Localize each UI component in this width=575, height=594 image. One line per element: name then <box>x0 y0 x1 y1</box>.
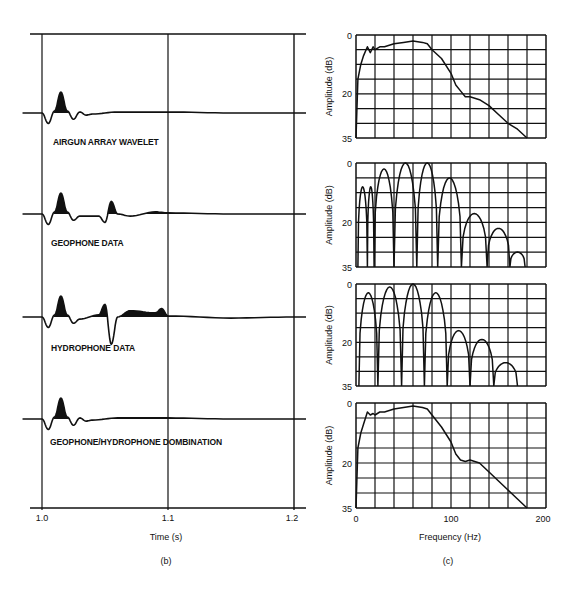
x-tick-1-1: 1.1 <box>162 513 175 523</box>
y-tick-0: 0 <box>347 399 352 409</box>
trace-1 <box>23 193 306 225</box>
y-tick-35: 35 <box>342 134 352 144</box>
y-tick-20: 20 <box>342 338 352 348</box>
y-tick-0: 0 <box>347 280 352 290</box>
y-axis-title-amplitude: Amplitude (dB) <box>324 305 334 365</box>
spectrum-curve <box>358 163 525 267</box>
y-tick-20: 20 <box>342 89 352 99</box>
trace-3 <box>23 398 306 430</box>
trace-label-hydrophone: HYDROPHONE DATA <box>51 343 135 353</box>
trace-line <box>23 398 306 430</box>
trace-label-combination: GEOPHONE/HYDROPHONE DOMBINATION <box>50 437 222 447</box>
y-axis-title-amplitude: Amplitude (dB) <box>324 426 334 486</box>
x-axis-title-time: Time (s) <box>150 532 183 542</box>
trace-fill <box>54 193 208 214</box>
figure: AIRGUN ARRAY WAVELET GEOPHONE DATA HYDRO… <box>0 0 575 594</box>
trace-0 <box>23 92 306 124</box>
spectrum-chart-3: 02035Amplitude (dB) <box>324 280 546 392</box>
y-axis-title-amplitude: Amplitude (dB) <box>324 57 334 117</box>
trace-line <box>23 296 306 344</box>
spectrum-chart-2: 02035Amplitude (dB) <box>324 159 546 273</box>
trace-label-airgun: AIRGUN ARRAY WAVELET <box>53 137 160 147</box>
spectrum-curve <box>359 284 518 386</box>
y-tick-35: 35 <box>342 504 352 514</box>
x-tick-1-0: 1.0 <box>36 513 49 523</box>
trace-line <box>23 92 306 124</box>
spectrum-chart-1: 02035Amplitude (dB) <box>324 31 546 144</box>
caption-b: (b) <box>161 556 172 566</box>
x-axis-title-frequency: Frequency (Hz) <box>419 532 481 542</box>
trace-fill <box>54 398 208 419</box>
x-tick-1-2: 1.2 <box>286 513 299 523</box>
trace-fill <box>54 92 208 113</box>
caption-c: (c) <box>443 556 454 566</box>
x-tick-freq-200: 200 <box>535 514 550 524</box>
y-tick-20: 20 <box>342 218 352 228</box>
y-tick-0: 0 <box>347 159 352 169</box>
y-axis-title-amplitude: Amplitude (dB) <box>324 185 334 245</box>
trace-line <box>23 193 306 225</box>
x-tick-freq-0: 0 <box>353 514 358 524</box>
y-tick-35: 35 <box>342 382 352 392</box>
y-tick-20: 20 <box>342 459 352 469</box>
y-tick-0: 0 <box>347 31 352 41</box>
trace-label-geophone: GEOPHONE DATA <box>51 238 124 248</box>
spectrum-chart-4: 02035Amplitude (dB) <box>324 399 546 514</box>
x-tick-freq-100: 100 <box>443 514 458 524</box>
y-tick-35: 35 <box>342 263 352 273</box>
trace-2 <box>23 296 306 344</box>
panel-c: 02035Amplitude (dB)02035Amplitude (dB)02… <box>324 31 546 514</box>
